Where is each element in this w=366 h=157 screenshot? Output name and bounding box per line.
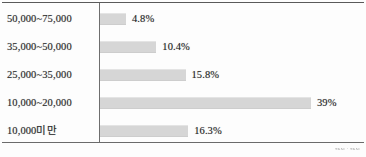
chart-row: 35,000~50,000 10.4% bbox=[0, 33, 366, 61]
bar-group: 16.3% bbox=[100, 125, 222, 137]
bar bbox=[100, 13, 126, 25]
bar-value-label: 10.4% bbox=[162, 41, 190, 53]
bar bbox=[100, 69, 186, 81]
category-label: 10,000~20,000 bbox=[7, 97, 72, 109]
chart-row: 50,000~75,000 4.8% bbox=[0, 5, 366, 33]
chart-row: 10,000~20,000 39% bbox=[0, 89, 366, 117]
bar-value-label: 39% bbox=[317, 97, 337, 109]
chart-row: 10,000미만 16.3% bbox=[0, 117, 366, 145]
figure-caption: ᴛᴋᴀɪ · ᴛᴋᴀɪ bbox=[335, 145, 360, 152]
frame-top-rule bbox=[2, 2, 364, 3]
chart-row: 25,000~35,000 15.8% bbox=[0, 61, 366, 89]
category-label: 10,000미만 bbox=[7, 125, 57, 137]
category-label: 25,000~35,000 bbox=[7, 69, 72, 81]
bar-value-label: 4.8% bbox=[132, 13, 154, 25]
category-label: 35,000~50,000 bbox=[7, 41, 72, 53]
bar-group: 4.8% bbox=[100, 13, 154, 25]
bar bbox=[100, 41, 156, 53]
bar bbox=[100, 125, 188, 137]
bar-chart-figure: 50,000~75,000 4.8% 35,000~50,000 10.4% 2… bbox=[0, 0, 366, 157]
category-label: 50,000~75,000 bbox=[7, 13, 72, 25]
bar-group: 15.8% bbox=[100, 69, 219, 81]
bar-group: 10.4% bbox=[100, 41, 190, 53]
bar-value-label: 15.8% bbox=[192, 69, 220, 81]
bar-value-label: 16.3% bbox=[194, 125, 222, 137]
bar bbox=[100, 97, 311, 109]
bar-group: 39% bbox=[100, 97, 337, 109]
